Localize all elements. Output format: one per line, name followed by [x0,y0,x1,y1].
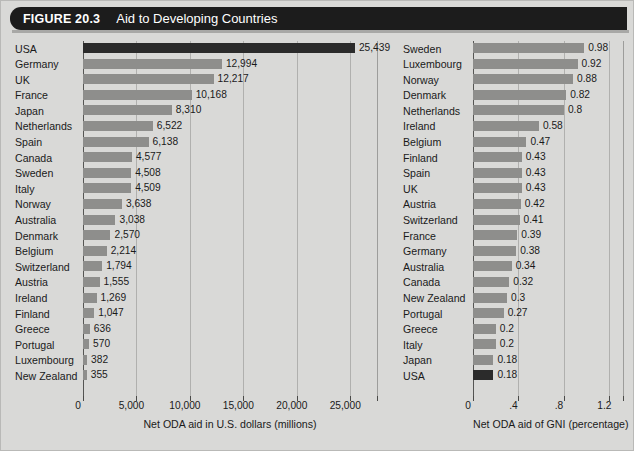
axis-tick [564,396,565,401]
bar-value-label: 10,168 [196,89,227,100]
category-label: UK [403,184,473,195]
bar-row: Netherlands0.8 [403,103,625,119]
bar [473,230,517,240]
bar-value-label: 12,994 [226,58,257,69]
bar-track: 4,508 [83,166,385,182]
category-label: Denmark [15,231,83,242]
category-label: France [15,90,83,101]
bar [473,293,507,303]
bar-value-label: 0.43 [526,182,546,193]
bar-track: 2,214 [83,244,385,260]
bar-value-label: 1,555 [104,276,130,287]
bar-track: 355 [83,368,385,384]
bar-value-label: 6,138 [153,136,179,147]
bar [473,277,509,287]
axis-tick-label: 0 [75,400,81,411]
bar-row: Sweden4,508 [15,166,385,182]
category-label: Belgium [15,246,83,257]
category-label: Portugal [403,309,473,320]
category-label: Canada [15,153,83,164]
category-label: Sweden [15,168,83,179]
bar-value-label: 0.2 [500,323,514,334]
bar-track: 1,269 [83,291,385,307]
bar-track: 0.88 [473,72,625,88]
category-label: Belgium [403,137,473,148]
category-label: Spain [403,168,473,179]
bar-value-label: 0.27 [508,307,528,318]
bar-row: Netherlands6,522 [15,119,385,135]
bar-rows-right: Sweden0.98Luxembourg0.92Norway0.88Denmar… [403,41,625,384]
bar [83,137,149,147]
category-label: Luxembourg [15,355,83,366]
bar-value-label: 0.38 [520,245,540,256]
category-label: Netherlands [15,121,83,132]
axis-tick [518,396,519,401]
bar [83,277,100,287]
bar-track: 0.3 [473,291,625,307]
bar-track: 4,577 [83,150,385,166]
bar-value-label: 0.43 [526,151,546,162]
bar [473,90,566,100]
bar-row: Denmark0.82 [403,88,625,104]
bar-value-label: 0.18 [497,369,517,380]
bar-value-label: 382 [91,354,108,365]
bar [83,152,132,162]
bar-track: 0.2 [473,337,625,353]
bar [473,215,520,225]
bar [473,105,564,115]
bar-row: New Zealand0.3 [403,291,625,307]
bar-track: 1,047 [83,306,385,322]
x-axis-title-right: Net ODA aid of GNI (percentage) [473,418,623,430]
category-label: Portugal [15,340,83,351]
bar [83,183,131,193]
axis-tick [473,396,474,401]
category-label: Australia [403,262,473,273]
bar [83,59,222,69]
axis-tick-label: .8 [555,400,564,411]
bar [473,370,493,380]
bar-row: Greece0.2 [403,322,625,338]
bar-row: Switzerland1,794 [15,259,385,275]
bar-value-label: 0.92 [582,58,602,69]
bar-value-label: 0.2 [500,338,514,349]
bar-track: 0.43 [473,181,625,197]
bar-track: 0.43 [473,150,625,166]
bar-track: 0.8 [473,103,625,119]
axis-tick-label: 5,000 [119,400,145,411]
bar-track: 636 [83,322,385,338]
category-label: Japan [15,106,83,117]
bar-track: 0.38 [473,244,625,260]
bar-value-label: 0.43 [526,167,546,178]
bar-track: 0.43 [473,166,625,182]
bar-track: 12,994 [83,57,385,73]
category-label: Canada [403,277,473,288]
bar-track: 0.82 [473,88,625,104]
figure-number: FIGURE 20.3 [23,12,100,26]
bar [83,355,87,365]
axis-tick [623,396,624,401]
category-label: Austria [403,199,473,210]
bar [83,370,87,380]
bar-value-label: 6,522 [157,120,183,131]
category-label: Norway [15,199,83,210]
bar [473,199,521,209]
category-label: Switzerland [15,262,83,273]
bar-value-label: 0.58 [543,120,563,131]
bar-row: Ireland1,269 [15,291,385,307]
bar-row: France0.39 [403,228,625,244]
bar-row: Germany12,994 [15,57,385,73]
bar-value-label: 570 [93,338,110,349]
bar [473,121,539,131]
bar [83,43,355,53]
category-label: Germany [403,246,473,257]
category-label: UK [15,75,83,86]
bar-row: Japan8,310 [15,103,385,119]
category-label: New Zealand [403,293,473,304]
bar-track: 6,138 [83,135,385,151]
bar-row: UK12,217 [15,72,385,88]
axis-tick [377,396,378,401]
x-axis-title-left: Net ODA aid in U.S. dollars (millions) [83,418,377,430]
axis-tick-label: 20,000 [276,400,307,411]
bar [473,137,526,147]
bar [83,339,89,349]
